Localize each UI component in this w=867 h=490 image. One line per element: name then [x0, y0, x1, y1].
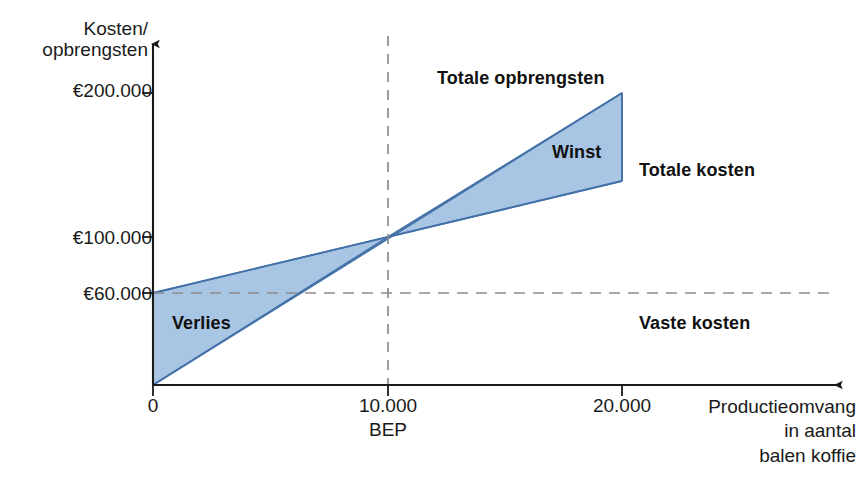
break-even-chart: Kosten/opbrengsten €200.000 €100.000 €60…: [0, 0, 867, 490]
annotation-totale-kosten: Totale kosten: [639, 160, 755, 180]
annotation-totale-opbrengsten: Totale opbrengsten: [437, 68, 604, 88]
x-axis-title: Productieomvangin aantalbalen koffie: [606, 395, 856, 468]
x-axis-title-line3: balen koffie: [759, 445, 856, 466]
y-tick-label-200000: €200.000: [73, 80, 152, 101]
x-axis-title-line2: in aantal: [784, 420, 856, 441]
annotation-verlies: Verlies: [172, 313, 231, 333]
y-axis-title-line2: opbrengsten: [42, 39, 148, 60]
y-tick-label-60000: €60.000: [83, 283, 152, 304]
y-tick-label-100000: €100.000: [73, 227, 152, 248]
y-axis-title: Kosten/opbrengsten: [42, 18, 148, 61]
x-tick-label-0: 0: [133, 395, 173, 416]
x-axis-title-line1: Productieomvang: [708, 396, 856, 417]
annotation-winst: Winst: [552, 142, 601, 162]
x-tick-label-10000: 10.000: [333, 395, 443, 416]
bep-label: BEP: [333, 419, 443, 440]
annotation-vaste-kosten: Vaste kosten: [639, 313, 750, 333]
y-axis-title-line1: Kosten/: [84, 18, 148, 39]
